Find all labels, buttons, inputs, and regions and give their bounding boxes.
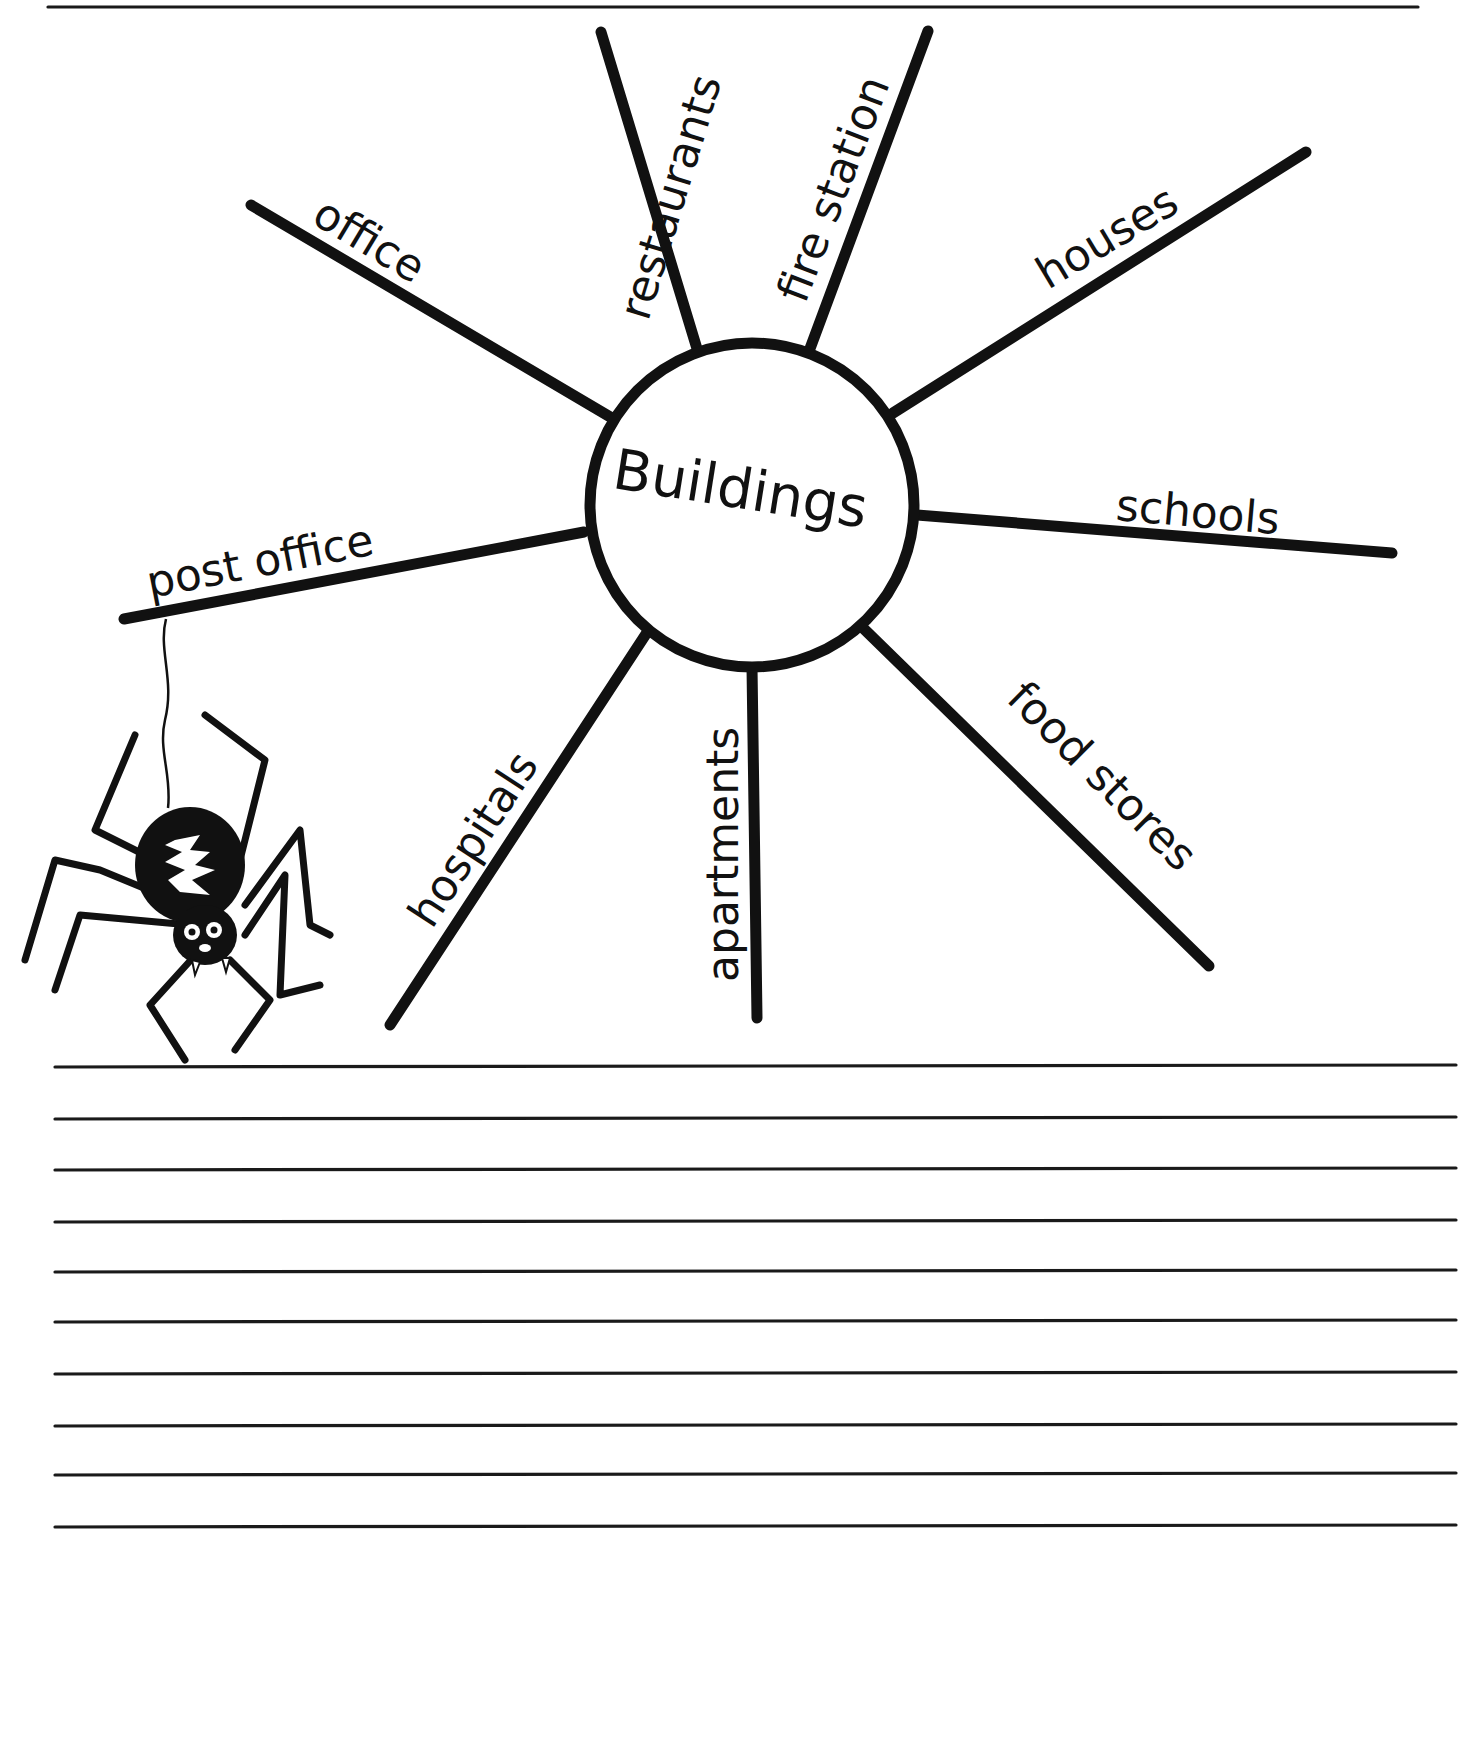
ray-hospitals	[390, 634, 646, 1025]
writing-line[interactable]	[55, 1320, 1456, 1322]
writing-line[interactable]	[55, 1473, 1456, 1475]
web-center: Buildings	[590, 343, 914, 667]
ray-houses	[893, 152, 1306, 413]
writing-line[interactable]	[55, 1220, 1456, 1222]
ray-label-food-stores: food stores	[998, 671, 1208, 881]
ray-office	[251, 205, 612, 418]
writing-line[interactable]	[55, 1065, 1456, 1067]
writing-line[interactable]	[55, 1372, 1456, 1374]
spider-icon	[25, 619, 330, 1060]
writing-line[interactable]	[55, 1117, 1456, 1119]
ray-apartments	[752, 667, 757, 1018]
writing-line[interactable]	[55, 1168, 1456, 1170]
writing-lines	[55, 1065, 1456, 1527]
writing-line[interactable]	[55, 1270, 1456, 1272]
writing-line[interactable]	[55, 1424, 1456, 1426]
writing-line[interactable]	[55, 1525, 1456, 1527]
word-web-worksheet: Buildings officerestaurantsfire stationh…	[0, 0, 1466, 1748]
ray-label-apartments: apartments	[697, 727, 748, 982]
